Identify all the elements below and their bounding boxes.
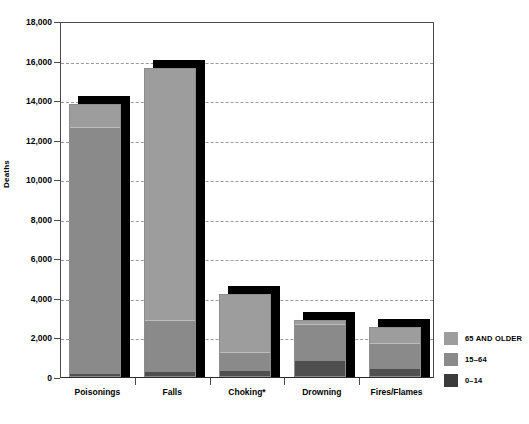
bar-segment bbox=[145, 69, 195, 320]
x-tick-mark bbox=[210, 378, 211, 385]
x-tick-mark bbox=[284, 378, 285, 385]
bar-group[interactable] bbox=[369, 21, 421, 377]
legend-label: 15–64 bbox=[465, 355, 487, 364]
y-tick-label: 8,000 bbox=[31, 215, 52, 225]
bar-segment bbox=[70, 127, 120, 374]
y-tick-label: 0 bbox=[47, 373, 52, 383]
legend-item-15-64[interactable]: 15–64 bbox=[444, 353, 522, 366]
bar-stack[interactable] bbox=[144, 68, 196, 377]
bar-group[interactable] bbox=[294, 21, 346, 377]
y-tick-label: 6,000 bbox=[31, 254, 52, 264]
y-tick-label: 4,000 bbox=[31, 294, 52, 304]
light-gray-swatch bbox=[444, 332, 458, 345]
y-tick-label: 18,000 bbox=[26, 17, 52, 27]
y-axis-title: Deaths bbox=[2, 160, 11, 188]
bar-segment bbox=[145, 372, 195, 376]
bar-group[interactable] bbox=[219, 21, 271, 377]
bar-stack[interactable] bbox=[294, 320, 346, 377]
bar-segment bbox=[220, 352, 270, 371]
x-tick-mark bbox=[135, 378, 136, 385]
bar-segment bbox=[220, 295, 270, 352]
bar-segment bbox=[145, 320, 195, 372]
bar-stack[interactable] bbox=[69, 104, 121, 377]
legend: 65 AND OLDER 15–64 0–14 bbox=[444, 332, 522, 395]
legend-label: 0–14 bbox=[465, 376, 483, 385]
legend-item-0-14[interactable]: 0–14 bbox=[444, 374, 522, 387]
stacked-bar-chart: Deaths 02,0004,0006,0008,00010,00012,000… bbox=[0, 0, 529, 424]
plot-area bbox=[60, 22, 434, 378]
bar-segment bbox=[295, 324, 345, 361]
x-axis-label: Choking* bbox=[210, 387, 285, 397]
dark-gray-swatch bbox=[444, 374, 458, 387]
bar-segment bbox=[70, 105, 120, 127]
bar-segment bbox=[295, 361, 345, 376]
x-axis-label: Drowning bbox=[284, 387, 359, 397]
y-tick-label: 16,000 bbox=[26, 57, 52, 67]
legend-label: 65 AND OLDER bbox=[465, 334, 522, 343]
x-axis-label: Falls bbox=[135, 387, 210, 397]
x-axis-label: Poisonings bbox=[60, 387, 135, 397]
bar-segment bbox=[370, 369, 420, 376]
x-axis-label: Fires/Flames bbox=[359, 387, 434, 397]
y-tick-label: 12,000 bbox=[26, 136, 52, 146]
y-tick-label: 2,000 bbox=[31, 333, 52, 343]
bar-group[interactable] bbox=[144, 21, 196, 377]
y-tick-label: 14,000 bbox=[26, 96, 52, 106]
y-tick-label: 10,000 bbox=[26, 175, 52, 185]
bar-stack[interactable] bbox=[219, 294, 271, 377]
bar-segment bbox=[70, 374, 120, 376]
medium-gray-swatch bbox=[444, 353, 458, 366]
x-tick-mark bbox=[359, 378, 360, 385]
bar-stack[interactable] bbox=[369, 327, 421, 377]
bar-segment bbox=[370, 328, 420, 344]
y-tick-mark bbox=[54, 378, 60, 379]
bar-segment bbox=[220, 371, 270, 376]
legend-item-65-and-older[interactable]: 65 AND OLDER bbox=[444, 332, 522, 345]
bar-group[interactable] bbox=[69, 21, 121, 377]
bar-segment bbox=[370, 343, 420, 368]
